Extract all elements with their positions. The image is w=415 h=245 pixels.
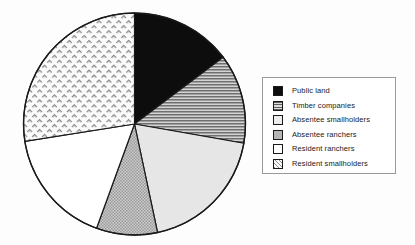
legend-item-absentee-ranchers[interactable]: Absentee ranchers [273,128,395,142]
legend-item-timber-companies[interactable]: Timber companies [273,99,395,113]
legend-label-absentee-ranchers: Absentee ranchers [292,130,357,140]
legend-swatch-absentee-ranchers [273,130,283,140]
legend-item-resident-ranchers[interactable]: Resident ranchers [273,142,395,156]
legend-label-timber-companies: Timber companies [292,101,355,111]
legend-label-public-land: Public land [292,86,330,96]
legend-item-public-land[interactable]: Public land [273,84,395,98]
pie-slices-group [23,13,245,235]
legend-item-absentee-smallholders[interactable]: Absentee smallholders [273,113,395,127]
legend-swatch-resident-ranchers [273,144,283,154]
legend-label-absentee-smallholders: Absentee smallholders [292,115,370,125]
legend-item-resident-smallholders[interactable]: Resident smallholders [273,157,395,171]
chart-legend: Public land Timber companies Absentee sm… [262,77,396,174]
legend-label-resident-ranchers: Resident ranchers [292,144,355,154]
legend-swatch-timber-companies [273,101,283,111]
legend-swatch-public-land [273,86,283,96]
legend-swatch-resident-smallholders [273,159,283,169]
legend-swatch-absentee-smallholders [273,115,283,125]
pie-slice-resident-smallholders[interactable] [23,13,134,141]
legend-label-resident-smallholders: Resident smallholders [292,159,368,169]
pie-chart-figure: Public land Timber companies Absentee sm… [0,0,415,245]
